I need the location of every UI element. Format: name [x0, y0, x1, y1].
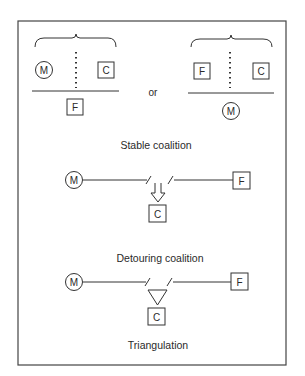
detouring-group: M F C — [66, 172, 251, 223]
triangulation-group: M F C — [66, 273, 249, 325]
down-arrow-icon — [151, 183, 165, 202]
caption-detouring-coalition: Detouring coalition — [117, 252, 204, 264]
label-c: C — [102, 65, 109, 76]
label-m: M — [70, 277, 78, 288]
coalition-diagram: M C F or F C M Stable coalition M F C De… — [0, 0, 305, 376]
label-f: F — [238, 176, 244, 187]
or-connector: or — [149, 87, 159, 98]
caption-triangulation: Triangulation — [128, 339, 188, 351]
label-f: F — [72, 102, 78, 113]
stable-left-group: M C F — [32, 34, 119, 115]
break-slash-icon — [168, 176, 173, 184]
label-f: F — [236, 277, 242, 288]
label-m: M — [227, 106, 235, 117]
break-slash-icon — [167, 278, 172, 286]
brace-icon — [35, 34, 116, 47]
caption-stable-coalition: Stable coalition — [120, 139, 191, 151]
stable-right-group: F C M — [188, 35, 274, 120]
label-m: M — [40, 65, 48, 76]
triangle-icon — [148, 290, 167, 305]
label-c: C — [154, 209, 161, 220]
label-c: C — [257, 66, 264, 77]
brace-icon — [191, 35, 272, 47]
label-c: C — [153, 312, 160, 323]
label-f: F — [199, 66, 205, 77]
label-m: M — [70, 175, 78, 186]
